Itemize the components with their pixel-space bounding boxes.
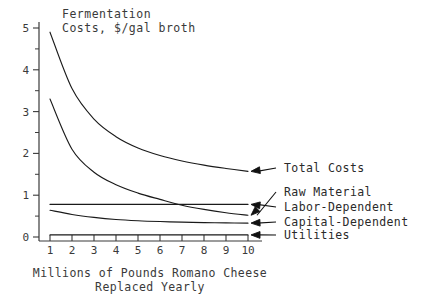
y-tick-label: 0	[22, 231, 29, 244]
series-curve	[50, 99, 248, 215]
x-tick-label: 4	[113, 244, 120, 257]
x-tick-label: 2	[69, 244, 76, 257]
series-label: Total Costs	[284, 161, 365, 175]
x-tick-label: 5	[135, 244, 142, 257]
y-tick-label: 2	[22, 147, 29, 160]
series-label: Utilities	[284, 228, 350, 242]
y-tick-label: 1	[22, 189, 29, 202]
series-label: Labor-Dependent	[284, 200, 394, 214]
y-tick-label: 4	[22, 64, 29, 77]
annotation-capital-dependent: Capital-Dependent	[251, 215, 409, 229]
x-tick-label: 7	[179, 244, 186, 257]
fermentation-costs-line-chart: Fermentation Costs, $/gal broth 012345 1…	[0, 0, 436, 302]
y-tick-label: 3	[22, 106, 29, 119]
x-tick-label: 9	[223, 244, 230, 257]
annotation-arrowhead	[251, 219, 260, 226]
x-axis: 12345678910	[39, 235, 262, 257]
x-tick-label: 6	[157, 244, 164, 257]
chart-title-line2: Costs, $/gal broth	[62, 21, 196, 35]
series-label: Raw Material	[284, 185, 372, 199]
annotation-total-costs: Total Costs	[251, 161, 365, 175]
annotation-arrowhead	[251, 232, 260, 239]
x-tick-label: 8	[201, 244, 208, 257]
data-series-group	[50, 32, 248, 235]
x-tick-label: 3	[91, 244, 98, 257]
y-tick-label: 5	[22, 22, 29, 35]
annotation-labor-dependent: Labor-Dependent	[251, 200, 394, 214]
x-tick-label: 1	[47, 244, 54, 257]
x-axis-label-line2: Replaced Yearly	[95, 280, 205, 294]
y-axis: 012345	[22, 22, 39, 244]
annotation-utilities: Utilities	[251, 228, 350, 242]
chart-title-line1: Fermentation	[62, 7, 151, 21]
series-annotations: Total CostsRaw MaterialLabor-DependentCa…	[251, 161, 409, 242]
x-axis-label-line1: Millions of Pounds Romano Cheese	[33, 266, 267, 280]
x-tick-label: 10	[241, 244, 254, 257]
annotation-arrowhead	[251, 167, 260, 174]
chart-figure: Fermentation Costs, $/gal broth 012345 1…	[0, 0, 436, 302]
series-curve	[50, 32, 248, 171]
series-label: Capital-Dependent	[284, 215, 409, 229]
